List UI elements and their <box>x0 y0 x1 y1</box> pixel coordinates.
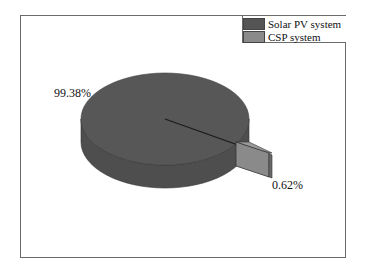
legend-swatch-csp <box>243 31 265 43</box>
legend-swatch-solar-pv <box>243 18 265 30</box>
legend: Solar PV system CSP system <box>242 15 346 43</box>
legend-item-csp: CSP system <box>243 30 320 43</box>
csp-slice-side <box>236 142 269 177</box>
legend-label-csp: CSP system <box>268 31 320 43</box>
legend-label-solar-pv: Solar PV system <box>268 18 341 30</box>
csp-slice-end <box>269 153 272 178</box>
legend-item-solar-pv: Solar PV system <box>243 17 341 30</box>
data-label-solar-pv: 99.38% <box>54 86 91 101</box>
data-label-csp: 0.62% <box>272 178 303 193</box>
